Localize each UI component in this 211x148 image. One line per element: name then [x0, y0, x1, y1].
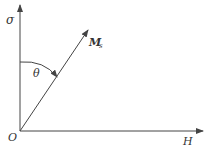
ms-label-sub: s	[99, 42, 103, 50]
magnetization-vector	[20, 30, 88, 131]
sigma-axis-label: σ	[6, 13, 15, 27]
origin-label: O	[8, 131, 17, 144]
theta-label: θ	[33, 67, 40, 80]
h-axis-label: H	[182, 135, 193, 148]
diagram-canvas: σ H O θ M s	[0, 0, 211, 148]
